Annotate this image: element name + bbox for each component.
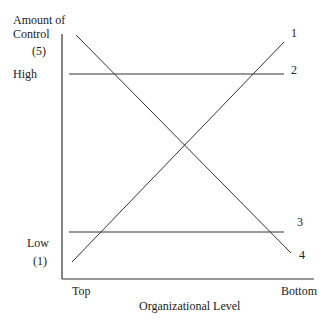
line-1 bbox=[72, 42, 284, 262]
line-3-label: 3 bbox=[297, 216, 303, 229]
x-axis-title: Organizational Level bbox=[139, 300, 240, 313]
y-bottom-value: (1) bbox=[33, 255, 47, 268]
y-top-value: (5) bbox=[32, 45, 46, 58]
y-high-label: High bbox=[13, 68, 37, 81]
x-left-label: Top bbox=[72, 285, 91, 298]
y-low-label: Low bbox=[27, 237, 49, 250]
line-4-label: 4 bbox=[299, 249, 305, 262]
control-graph bbox=[0, 0, 333, 329]
y-axis-title-line2: Control bbox=[13, 28, 50, 41]
line-1-label: 1 bbox=[291, 27, 297, 40]
y-axis-title-line1: Amount of bbox=[13, 14, 65, 27]
line-2-label: 2 bbox=[291, 64, 297, 77]
x-right-label: Bottom bbox=[281, 285, 317, 298]
